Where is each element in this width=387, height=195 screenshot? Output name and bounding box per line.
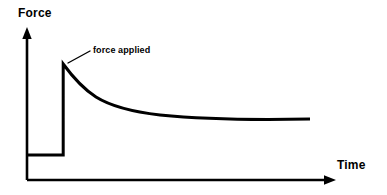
annotation-force-applied-label: force applied <box>93 46 150 56</box>
stress-relaxation-figure: Force Time force applied <box>0 0 387 195</box>
x-axis-label: Time <box>337 159 366 171</box>
leader-line-icon <box>68 51 90 63</box>
plot-area <box>0 0 387 195</box>
y-axis <box>22 27 31 180</box>
y-axis-label: Force <box>18 7 52 19</box>
x-axis <box>27 175 336 184</box>
arrow-up-icon <box>22 27 31 39</box>
force-curve <box>28 64 310 155</box>
arrow-right-icon <box>324 175 336 184</box>
